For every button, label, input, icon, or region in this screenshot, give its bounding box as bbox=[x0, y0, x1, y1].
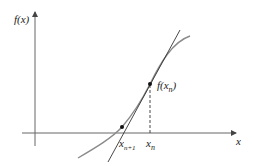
y-axis-label: f(x) bbox=[14, 13, 30, 26]
point-xn1 bbox=[120, 125, 124, 129]
point-fxn bbox=[148, 82, 152, 86]
newton-method-diagram: f(x) x f(xn) xn xn+1 bbox=[0, 0, 254, 166]
x-axis-label: x bbox=[235, 135, 241, 147]
xn1-label: xn+1 bbox=[118, 137, 136, 152]
fxn-label: f(xn) bbox=[157, 79, 177, 94]
function-curve bbox=[78, 36, 190, 158]
xn-label: xn bbox=[145, 137, 155, 152]
